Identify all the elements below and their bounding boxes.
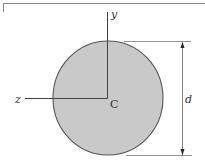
centroid-label: C <box>110 98 118 111</box>
arrowhead-down-icon <box>181 149 185 155</box>
cross-section-diagram: y z C d <box>0 0 205 166</box>
diameter-label: d <box>185 93 192 106</box>
z-axis-label: z <box>14 93 21 106</box>
arrowhead-up-icon <box>181 42 185 48</box>
y-axis-label: y <box>110 8 118 21</box>
